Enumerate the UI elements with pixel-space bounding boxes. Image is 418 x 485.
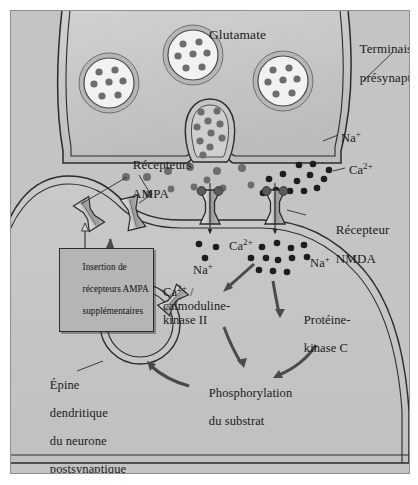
- figure-page: Glutamate Terminaison présynaptique Réce…: [0, 0, 418, 485]
- insertion-ampa-box: Insertion de récepteurs AMPA supplémenta…: [59, 248, 154, 332]
- dendritic-spine-label: Épine dendritique du neurone postsynapti…: [24, 364, 126, 474]
- label-layer: Glutamate Terminaison présynaptique Réce…: [11, 11, 409, 473]
- phosphorylation-label: Phosphorylation du substrat: [183, 372, 292, 442]
- sodium-inner-right-label: Na+: [310, 254, 330, 270]
- calcium-inner-label: Ca2+: [229, 237, 253, 253]
- figure-frame: Glutamate Terminaison présynaptique Réce…: [10, 10, 410, 474]
- calcium-cleft-label: Ca2+: [349, 161, 373, 177]
- ampa-receptors-label: Récepteurs AMPA: [106, 143, 192, 216]
- sodium-inner-left-label: Na+: [193, 261, 213, 277]
- sodium-cleft-label: Na+: [341, 129, 361, 145]
- presynaptic-terminal-label: Terminaison présynaptique: [333, 27, 410, 100]
- camkii-label: Ca2+ /calmoduline-kinase II: [163, 283, 230, 327]
- pkc-label: Protéine- kinase C: [278, 299, 351, 369]
- glutamate-label: Glutamate: [209, 27, 266, 42]
